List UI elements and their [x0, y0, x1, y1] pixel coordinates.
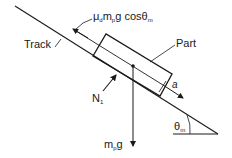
part-label: Part	[176, 37, 196, 49]
weight-label: mpg	[104, 138, 123, 151]
angle-label: θm	[174, 120, 185, 133]
friction-label: μdmpg cosθm	[93, 10, 153, 23]
angle-arc	[187, 115, 190, 134]
part-leader	[150, 45, 175, 62]
part-centerline	[76, 31, 163, 85]
normal-label: N1	[92, 92, 104, 105]
friction-leader	[76, 19, 92, 29]
track-leader	[55, 39, 61, 47]
inclined-track-diagram: μdmpg cosθm Track Part a N1 mpg θm	[0, 0, 232, 158]
track-label: Track	[24, 38, 52, 50]
accel-label: a	[172, 79, 178, 90]
normal-arrow	[103, 75, 116, 91]
friction-arrow	[73, 29, 88, 38]
